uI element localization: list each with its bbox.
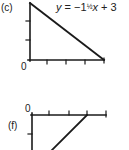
eq-equals: = (65, 1, 71, 13)
graph-c-origin-label: 0 (21, 62, 27, 72)
graph-f (28, 111, 106, 150)
eq-lhs: y (56, 1, 62, 13)
graph-c-label: (c) (1, 3, 13, 13)
graphs-canvas (0, 0, 129, 150)
eq-var: x (92, 1, 98, 13)
graph-f-origin-label: 0 (25, 104, 31, 114)
eq-plus: + (101, 1, 107, 13)
graph-c-equation: y = −1½x + 3 (56, 1, 117, 13)
eq-const: 3 (111, 1, 117, 13)
graph-f-line (52, 115, 87, 150)
graph-f-label: (f) (8, 121, 17, 131)
